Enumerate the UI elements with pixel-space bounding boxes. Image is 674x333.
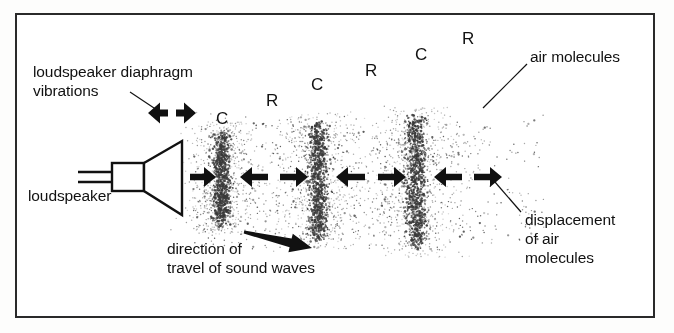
label-direction-of-travel: direction oftravel of sound waves [167,239,315,277]
displacement-arrow-left-3 [336,167,365,187]
displacement-label-line-2: of air [525,230,559,247]
direction-label-line-1: direction of [167,240,242,257]
label-displacement-of-air-molecules: displacementof airmolecules [525,210,615,267]
wave-marker-compression-0: C [216,110,228,127]
displacement-arrow-right-6 [474,167,502,187]
displacement-arrow-left-5 [434,167,462,187]
diaphragm-arrow-right [176,103,196,124]
diaphragm-label-line-1: loudspeaker diaphragm [33,63,193,80]
displacement-arrow-right-4 [378,167,406,187]
displacement-label-line-3: molecules [525,249,594,266]
air-displacement-arrows [190,167,502,187]
wave-marker-rarefaction-1: R [266,92,278,109]
direction-label-line-2: travel of sound waves [167,259,315,276]
displacement-arrow-right-2 [280,167,308,187]
air-molecules-leader [483,64,527,108]
displacement-label-line-1: displacement [525,211,615,228]
diaphragm-vibration-arrows [148,103,196,124]
displacement-arrow-right-0 [190,167,216,187]
wave-marker-compression-2: C [311,76,323,93]
label-loudspeaker: loudspeaker [28,186,111,205]
wave-marker-compression-4: C [415,46,427,63]
label-air-molecules: air molecules [530,47,620,66]
label-loudspeaker-diaphragm-vibrations: loudspeaker diaphragmvibrations [33,62,193,100]
diaphragm-label-line-2: vibrations [33,82,98,99]
speaker-magnet-body [112,163,144,191]
wave-marker-rarefaction-3: R [365,62,377,79]
wave-marker-rarefaction-5: R [462,30,474,47]
diagram-canvas: loudspeaker diaphragmvibrations loudspea… [0,0,674,333]
displacement-arrow-left-1 [240,167,268,187]
speaker-cone [144,141,182,215]
displacement-leader [495,182,521,212]
